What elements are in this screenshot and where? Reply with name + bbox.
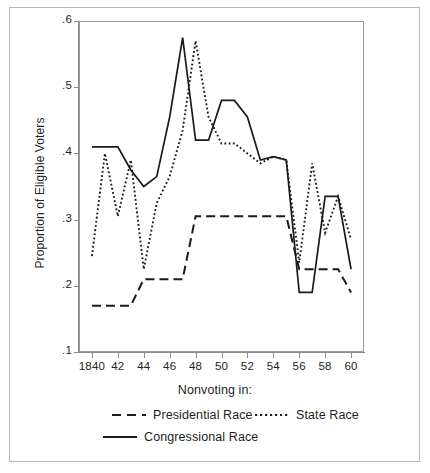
x-axis-tick-label: 42	[111, 360, 124, 372]
legend-swatch-solid-icon	[103, 432, 137, 442]
x-axis-tick-label: 52	[241, 360, 254, 372]
x-axis-tick-label: 60	[344, 360, 357, 372]
legend-label: State Race	[296, 409, 359, 422]
x-axis-tick	[196, 353, 197, 358]
y-axis-tick	[74, 220, 79, 221]
x-axis-tick-label: 46	[163, 360, 176, 372]
x-axis-tick-label: 48	[189, 360, 202, 372]
y-axis-tick-label: .1	[44, 344, 72, 356]
series-line-state-race	[92, 41, 351, 269]
y-axis-tick-label: .6	[44, 13, 72, 25]
x-axis-tick	[222, 353, 223, 358]
y-axis-tick	[74, 153, 79, 154]
chart-legend: Presidential RaceState RaceCongressional…	[0, 409, 430, 455]
legend-swatch-dotted-icon	[255, 410, 289, 420]
y-axis-ticks: .6.5.4.3.2.1	[38, 0, 72, 473]
x-axis-tick-label: 1840	[79, 360, 105, 372]
y-axis-tick-label: .4	[44, 145, 72, 157]
x-axis-tick	[170, 353, 171, 358]
legend-swatch-dashed-icon	[112, 410, 146, 420]
x-axis-tick	[247, 353, 248, 358]
y-axis-tick	[74, 87, 79, 88]
x-axis-tick	[351, 353, 352, 358]
y-axis-tick	[74, 352, 79, 353]
x-axis-tick-label: 50	[215, 360, 228, 372]
x-axis-tick-label: 56	[293, 360, 306, 372]
y-axis-tick-label: .5	[44, 79, 72, 91]
series-line-congressional-race	[92, 38, 351, 293]
x-axis-tick-label: 58	[319, 360, 332, 372]
y-axis-tick	[74, 21, 79, 22]
x-axis-tick	[92, 353, 93, 358]
x-axis-title: Nonvoting in:	[0, 383, 430, 397]
x-axis-tick-label: 44	[137, 360, 150, 372]
legend-item-congressional-race: Congressional Race	[103, 431, 258, 444]
series-container	[79, 21, 364, 352]
chart-figure: Proportion of Eligible Voters .6.5.4.3.2…	[0, 0, 430, 473]
x-axis-tick	[144, 353, 145, 358]
x-axis-tick	[118, 353, 119, 358]
plot-area	[79, 21, 364, 352]
x-axis-tick	[299, 353, 300, 358]
y-axis-tick	[74, 286, 79, 287]
y-axis-tick-label: .2	[44, 278, 72, 290]
y-axis-tick-label: .3	[44, 212, 72, 224]
legend-item-state-race: State Race	[255, 409, 359, 422]
legend-item-presidential-race: Presidential Race	[112, 409, 253, 422]
legend-label: Congressional Race	[144, 431, 258, 444]
legend-label: Presidential Race	[153, 409, 253, 422]
x-axis-tick	[273, 353, 274, 358]
x-axis-tick-label: 54	[267, 360, 280, 372]
x-axis-tick	[325, 353, 326, 358]
